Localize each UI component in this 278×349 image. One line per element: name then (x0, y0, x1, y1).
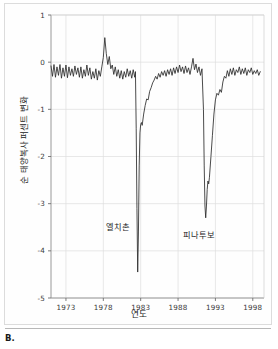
solar-radiation-line-chart (5, 4, 273, 326)
x-axis-title: 연도 (5, 307, 273, 319)
y-tick-label: 0 (19, 58, 45, 67)
figure-frame: 10-1-2-3-4-5 197319781983198819931998 엘치… (4, 3, 272, 325)
y-tick-label: -5 (19, 294, 45, 303)
caption-divider (5, 328, 271, 329)
eruption-label-1: 엘치촌 (106, 220, 130, 232)
eruption-label-2: 피나투보 (183, 228, 215, 240)
tick-marks (48, 15, 253, 301)
data-series-line (51, 38, 260, 272)
y-tick-label: 1 (19, 11, 45, 20)
gridlines (51, 15, 264, 298)
panel-caption: B. (5, 333, 15, 343)
y-tick-label: -4 (19, 246, 45, 255)
y-axis-title: 순 태양복사 퍼센트 변화 (17, 75, 29, 205)
